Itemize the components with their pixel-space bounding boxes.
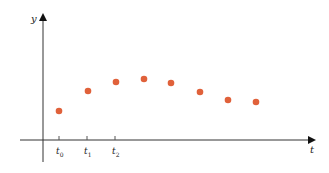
y-axis-arrow-icon: [39, 13, 47, 21]
data-point: [85, 88, 92, 95]
x-axis-label: t: [310, 144, 315, 155]
data-point: [225, 97, 232, 104]
data-point: [197, 89, 204, 96]
data-point: [168, 80, 175, 87]
data-points: [56, 76, 260, 115]
x-tick-label: t1: [84, 146, 91, 158]
x-tick-label: t2: [112, 146, 120, 158]
x-tick-label: t0: [56, 146, 64, 158]
data-point: [253, 99, 260, 106]
x-axis-arrow-icon: [308, 136, 316, 144]
scatter-chart: t y t0t1t2: [0, 0, 329, 173]
x-ticks: t0t1t2: [56, 136, 120, 158]
data-point: [56, 108, 63, 115]
data-point: [141, 76, 148, 83]
y-axis-label: y: [30, 13, 37, 24]
data-point: [113, 79, 120, 86]
